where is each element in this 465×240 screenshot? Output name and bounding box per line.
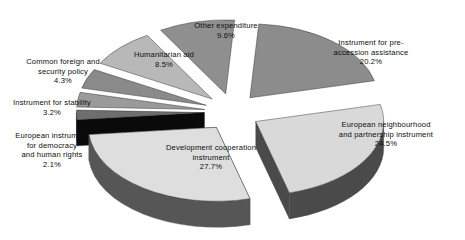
pie-slice[interactable] bbox=[89, 127, 250, 227]
pie-slice[interactable] bbox=[256, 104, 384, 218]
pie-slice-top-face[interactable] bbox=[250, 24, 375, 98]
pie-chart-canvas bbox=[0, 0, 465, 240]
pie-chart: Instrument for pre-accession assistance2… bbox=[0, 0, 465, 240]
pie-slice[interactable] bbox=[250, 24, 375, 98]
